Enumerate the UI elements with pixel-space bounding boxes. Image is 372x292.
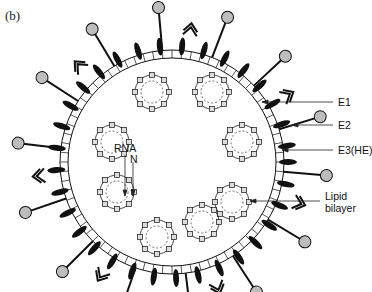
label-n: N xyxy=(130,153,138,165)
label-e2: E2 xyxy=(338,119,351,131)
label-e3-he: E3(HE) xyxy=(338,144,372,156)
label-lipid: Lipid xyxy=(325,190,347,202)
label-bilayer: bilayer xyxy=(325,202,356,214)
label-e1: E1 xyxy=(338,96,351,108)
